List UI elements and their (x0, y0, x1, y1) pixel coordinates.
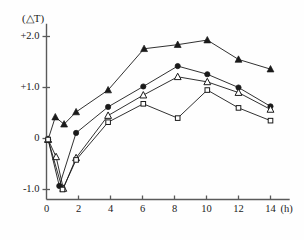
y-axis-unit-label: (△T) (22, 12, 44, 25)
x-tick-label: 12 (225, 203, 253, 214)
temperature-change-line-chart: (△T) -1.00+1.0+2.0 02468101214 (h) (0, 0, 304, 240)
series-open-square-series (46, 88, 273, 192)
x-tick-label: 6 (129, 203, 157, 214)
x-tick-label: 4 (97, 203, 125, 214)
y-tick-label: +2.0 (0, 30, 40, 41)
x-tick-label: 10 (193, 203, 221, 214)
y-tick-label: -1.0 (0, 183, 40, 194)
x-axis-unit-label: (h) (281, 203, 293, 214)
series-open-triangle-series (45, 73, 274, 191)
chart-series-group (45, 36, 274, 191)
y-tick-label: +1.0 (0, 81, 40, 92)
x-tick-label: 2 (65, 203, 93, 214)
x-tick-label: 8 (161, 203, 189, 214)
series-filled-circle-series (46, 63, 274, 188)
x-tick-label: 0 (33, 203, 61, 214)
y-tick-label: 0 (0, 132, 40, 143)
chart-axes (43, 24, 290, 200)
